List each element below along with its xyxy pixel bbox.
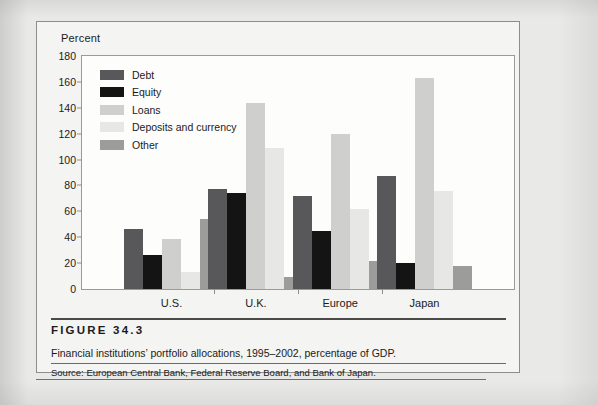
- bar[interactable]: [396, 263, 415, 289]
- bar[interactable]: [162, 239, 181, 289]
- bar[interactable]: [312, 231, 331, 289]
- x-axis-label-us: U.S.: [161, 297, 182, 309]
- bar[interactable]: [181, 272, 200, 289]
- y-axis-tick-mark: [77, 237, 82, 238]
- bar[interactable]: [227, 193, 246, 289]
- legend-label: Debt: [132, 69, 154, 81]
- bar[interactable]: [331, 134, 350, 289]
- y-axis-tick-label: 120: [40, 128, 76, 140]
- bar[interactable]: [124, 229, 143, 289]
- x-axis-tick-mark: [214, 289, 215, 294]
- bar[interactable]: [143, 255, 162, 289]
- legend-item: Deposits and currency: [100, 119, 236, 137]
- bar-group: [293, 56, 388, 289]
- y-axis-tick-label: 0: [40, 283, 76, 295]
- y-axis-tick-mark: [77, 185, 82, 186]
- legend-item: Loans: [100, 101, 236, 119]
- y-axis-tick-label: 80: [40, 179, 76, 191]
- legend-swatch-icon: [100, 122, 124, 132]
- page-rule-bottom: [36, 379, 486, 380]
- y-axis-tick-label: 100: [40, 154, 76, 166]
- bar[interactable]: [453, 266, 472, 289]
- legend-item: Debt: [100, 66, 236, 84]
- caption-rule-middle: [51, 363, 506, 364]
- legend-swatch-icon: [100, 140, 124, 150]
- bar[interactable]: [377, 176, 396, 289]
- chart-area: Percent 020406080100120140160180 DebtEqu…: [37, 22, 521, 310]
- bar-group: [377, 56, 472, 289]
- legend-label: Deposits and currency: [132, 121, 236, 133]
- y-axis-tick-label: 40: [40, 231, 76, 243]
- y-axis-tick-mark: [77, 263, 82, 264]
- x-axis-label-europe: Europe: [322, 297, 357, 309]
- x-axis-tick-mark: [382, 289, 383, 294]
- figure-box: Percent 020406080100120140160180 DebtEqu…: [36, 21, 520, 373]
- bar[interactable]: [246, 103, 265, 289]
- bar[interactable]: [434, 191, 453, 289]
- y-axis-tick-mark: [77, 133, 82, 134]
- y-axis-tick-label: 20: [40, 257, 76, 269]
- x-axis-tick-mark: [298, 289, 299, 294]
- x-axis-label-japan: Japan: [410, 297, 440, 309]
- y-axis-title: Percent: [61, 32, 100, 44]
- legend-swatch-icon: [100, 87, 124, 97]
- x-axis-label-uk: U.K.: [245, 297, 266, 309]
- figure-caption: Financial institutions’ portfolio alloca…: [51, 347, 396, 359]
- bar[interactable]: [350, 209, 369, 289]
- figure-number: FIGURE 34.3: [51, 324, 144, 336]
- legend-label: Other: [132, 139, 158, 151]
- y-axis-tick-label: 60: [40, 205, 76, 217]
- bar[interactable]: [415, 78, 434, 289]
- figure-source: Source: European Central Bank, Federal R…: [51, 367, 376, 378]
- chart-legend: DebtEquityLoansDeposits and currencyOthe…: [100, 66, 236, 154]
- bar[interactable]: [208, 189, 227, 289]
- caption-rule-top: [51, 318, 506, 320]
- legend-item: Other: [100, 136, 236, 154]
- legend-label: Loans: [132, 104, 161, 116]
- y-axis-tick-label: 160: [40, 76, 76, 88]
- y-axis-tick-mark: [77, 159, 82, 160]
- y-axis-tick-mark: [77, 211, 82, 212]
- y-axis-tick-label: 140: [40, 102, 76, 114]
- y-axis-tick-label: 180: [40, 50, 76, 62]
- legend-swatch-icon: [100, 70, 124, 80]
- y-axis-tick-mark: [77, 81, 82, 82]
- legend-item: Equity: [100, 84, 236, 102]
- legend-swatch-icon: [100, 105, 124, 115]
- bar[interactable]: [293, 196, 312, 289]
- bar[interactable]: [265, 148, 284, 289]
- y-axis-tick-mark: [77, 107, 82, 108]
- legend-label: Equity: [132, 86, 161, 98]
